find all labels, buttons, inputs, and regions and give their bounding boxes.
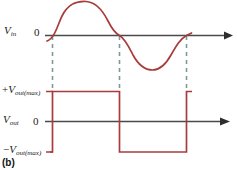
output-label-symbol: V	[3, 113, 10, 125]
input-label-symbol: V	[4, 24, 11, 36]
input-axis-arrowhead	[224, 32, 233, 40]
output-zero-label: 0	[33, 116, 39, 127]
negative-max-label: −Vout(max)	[3, 144, 41, 157]
output-axis-label: Vout	[3, 114, 19, 127]
input-zero-label: 0	[34, 27, 40, 38]
positive-max-label: +Vout(max)	[2, 84, 40, 97]
output-label-subscript: out	[10, 119, 19, 127]
dashed-guide-lines	[53, 36, 187, 92]
input-label-subscript: in	[11, 30, 16, 38]
figure-caption: (b)	[2, 158, 15, 168]
input-axis-label: Vin	[4, 25, 16, 38]
negative-max-subscript: out(max)	[16, 149, 41, 157]
positive-max-subscript: out(max)	[15, 89, 40, 97]
positive-max-symbol: V	[8, 83, 15, 95]
negative-max-symbol: V	[9, 143, 16, 155]
output-axis	[45, 118, 230, 126]
waveform-figure: Vin 0 +Vout(max) Vout 0 −Vout(max) (b)	[0, 0, 237, 170]
input-axis	[45, 32, 233, 40]
output-axis-arrowhead	[220, 118, 230, 126]
